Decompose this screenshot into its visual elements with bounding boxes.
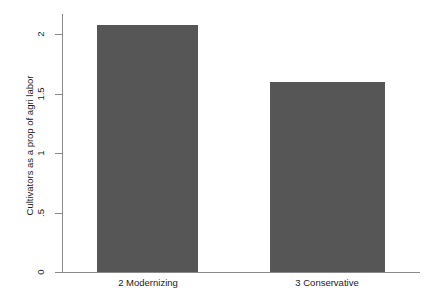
bar-1: [270, 82, 385, 272]
y-tick-label-0-wrap: 0: [30, 265, 52, 279]
y-axis-title: Cultivators as a prop of agri labor: [24, 31, 35, 261]
y-tick-label-4: 2: [34, 23, 48, 45]
chart-screenshot: 0 .5 1 1.5 2 Cultivators as a prop of ag…: [0, 0, 439, 302]
y-tick-mark-1: [55, 213, 62, 214]
y-axis-line: [62, 14, 63, 272]
y-tick-mark-2: [55, 153, 62, 154]
x-axis-label-1: 3 Conservative: [267, 277, 387, 288]
bar-0: [97, 25, 198, 272]
y-tick-label-2: 1: [34, 142, 48, 164]
y-tick-mark-0: [55, 272, 62, 273]
x-axis-line: [62, 272, 420, 273]
y-tick-label-0: 0: [34, 261, 48, 283]
y-tick-label-3: 1.5: [34, 83, 48, 105]
y-tick-mark-4: [55, 34, 62, 35]
x-axis-label-0: 2 Modernizing: [88, 277, 208, 288]
y-tick-label-1: .5: [34, 202, 48, 224]
plot-area: 0 .5 1 1.5 2 Cultivators as a prop of ag…: [0, 0, 439, 302]
y-tick-mark-3: [55, 94, 62, 95]
